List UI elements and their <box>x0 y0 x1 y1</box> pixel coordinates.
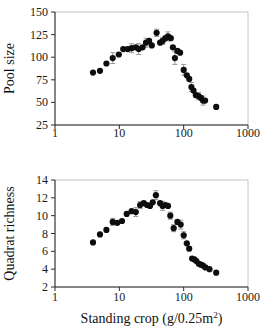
x-tick-label: 10 <box>113 290 125 304</box>
y-axis-title: Pool size <box>2 43 17 94</box>
data-point <box>165 203 171 209</box>
pool-size-panel: 2550751001251501101001000Pool size <box>0 0 274 168</box>
y-tick-label: 125 <box>30 28 48 42</box>
data-point <box>149 42 155 48</box>
data-point <box>172 55 178 61</box>
y-tick-label: 75 <box>36 73 48 87</box>
y-tick-label: 100 <box>30 50 48 64</box>
y-tick-label: 12 <box>36 191 48 205</box>
data-point <box>154 30 160 36</box>
data-point <box>110 55 116 61</box>
data-point <box>177 50 183 56</box>
x-tick-label: 1 <box>52 290 58 304</box>
data-point <box>206 266 212 272</box>
data-point <box>186 76 192 82</box>
data-point <box>213 270 219 276</box>
y-tick-label: 25 <box>36 118 48 132</box>
y-tick-label: 50 <box>36 95 48 109</box>
data-point <box>213 104 219 110</box>
x-tick-label: 1000 <box>236 290 260 304</box>
data-point <box>90 70 96 76</box>
data-point <box>171 225 177 231</box>
x-tick-label: 1 <box>52 126 58 140</box>
quadrat-richness-panel: 24681012141101001000Quadrat richnessStan… <box>0 168 274 336</box>
data-point <box>167 213 173 219</box>
x-tick-label: 1000 <box>236 126 260 140</box>
data-point <box>184 240 190 246</box>
data-point <box>181 232 187 238</box>
two-panel-scatter-figure: 2550751001251501101001000Pool size 24681… <box>0 0 274 336</box>
data-point <box>103 60 109 66</box>
y-axis-title: Quadrat richness <box>2 186 17 280</box>
data-point <box>97 231 103 237</box>
data-point <box>119 218 125 224</box>
data-point <box>103 227 109 233</box>
y-tick-label: 14 <box>36 173 48 187</box>
y-tick-label: 8 <box>42 227 48 241</box>
x-axis-title: Standing crop (g/0.25m2) <box>81 310 223 327</box>
data-point <box>97 68 103 74</box>
plot-frame <box>55 180 248 287</box>
data-point <box>178 222 184 228</box>
y-tick-label: 6 <box>42 244 48 258</box>
data-point <box>181 67 187 73</box>
x-tick-label: 100 <box>175 290 193 304</box>
x-tick-label: 10 <box>113 126 125 140</box>
y-tick-label: 2 <box>42 280 48 294</box>
data-point <box>168 35 174 41</box>
y-tick-label: 150 <box>30 5 48 19</box>
data-point <box>186 246 192 252</box>
data-point <box>150 199 156 205</box>
x-tick-label: 100 <box>175 126 193 140</box>
data-point <box>153 192 159 198</box>
y-tick-label: 4 <box>42 262 48 276</box>
data-point <box>202 98 208 104</box>
data-point <box>90 239 96 245</box>
data-point <box>133 209 139 215</box>
data-point <box>116 51 122 57</box>
y-tick-label: 10 <box>36 209 48 223</box>
